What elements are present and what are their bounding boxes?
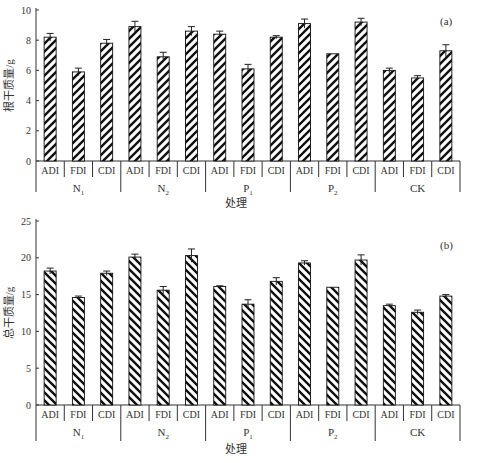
x-axis-label: 处理: [225, 443, 247, 455]
chart-svg: 0510152025总干质量/gADIFDICDIN1ADIFDICDIN2AD…: [0, 212, 480, 463]
category-label: CDI: [98, 165, 115, 176]
bar-ck-fdi: [412, 78, 424, 161]
bar-p1-adi: [214, 34, 226, 161]
category-label: FDI: [70, 165, 86, 176]
bar-n2-fdi: [157, 57, 169, 161]
category-label: ADI: [380, 409, 398, 420]
y-tick-label: 2: [26, 125, 31, 136]
y-tick-label: 8: [26, 35, 31, 46]
category-label: FDI: [240, 409, 256, 420]
category-label: ADI: [211, 165, 229, 176]
category-label: ADI: [296, 165, 314, 176]
group-label: P1: [243, 426, 253, 441]
bar-p1-fdi: [242, 304, 254, 405]
bar-p2-adi: [299, 24, 311, 161]
bar-p1-cdi: [270, 281, 282, 405]
x-axis-label: 处理: [225, 197, 247, 209]
y-tick-label: 6: [26, 65, 31, 76]
category-label: CDI: [183, 165, 200, 176]
category-label: FDI: [155, 165, 171, 176]
bar-n1-cdi: [101, 273, 113, 405]
group-label: N1: [73, 182, 85, 197]
bar-ck-cdi: [440, 51, 452, 161]
category-label: ADI: [126, 409, 144, 420]
bar-n2-adi: [129, 257, 141, 405]
group-label: N2: [157, 426, 169, 441]
category-label: CDI: [352, 165, 369, 176]
group-label: P2: [328, 182, 338, 197]
bar-p2-fdi: [327, 54, 339, 161]
bar-p1-cdi: [270, 37, 282, 161]
bar-n1-adi: [44, 271, 56, 405]
category-label: FDI: [70, 409, 86, 420]
y-axis-label: 总干质量/g: [2, 286, 15, 339]
bar-ck-fdi: [412, 312, 424, 405]
category-label: CDI: [268, 409, 285, 420]
category-label: CDI: [437, 409, 454, 420]
group-label: N1: [73, 426, 85, 441]
category-label: FDI: [325, 409, 341, 420]
category-label: ADI: [296, 409, 314, 420]
bar-n1-fdi: [72, 298, 84, 405]
bar-p1-fdi: [242, 69, 254, 161]
y-tick-label: 5: [26, 363, 31, 374]
y-tick-label: 0: [26, 156, 31, 167]
group-label: CK: [410, 426, 425, 438]
category-label: CDI: [437, 165, 454, 176]
bar-p2-adi: [299, 263, 311, 405]
bar-n2-fdi: [157, 290, 169, 405]
category-label: CDI: [183, 409, 200, 420]
bar-n1-adi: [44, 37, 56, 161]
y-tick-label: 15: [21, 289, 31, 300]
category-label: ADI: [211, 409, 229, 420]
y-tick-label: 4: [26, 95, 31, 106]
bar-ck-cdi: [440, 296, 452, 405]
category-label: ADI: [380, 165, 398, 176]
bar-n1-cdi: [101, 43, 113, 161]
category-label: CDI: [98, 409, 115, 420]
panel-label: (b): [440, 239, 453, 252]
bar-n2-cdi: [185, 256, 197, 405]
category-label: FDI: [155, 409, 171, 420]
y-tick-label: 25: [21, 216, 31, 227]
total-dry-mass-chart: 0510152025总干质量/gADIFDICDIN1ADIFDICDIN2AD…: [0, 212, 480, 463]
category-label: FDI: [410, 409, 426, 420]
category-label: FDI: [325, 165, 341, 176]
bar-p2-fdi: [327, 287, 339, 405]
bar-n2-cdi: [185, 31, 197, 161]
y-axis-label: 根干质量/g: [2, 59, 15, 112]
panel-label: (a): [440, 15, 453, 28]
y-tick-label: 0: [26, 400, 31, 411]
group-label: P1: [243, 182, 253, 197]
category-label: ADI: [41, 165, 59, 176]
bar-p2-cdi: [355, 260, 367, 405]
category-label: CDI: [352, 409, 369, 420]
bar-ck-adi: [383, 306, 395, 405]
y-tick-label: 10: [21, 5, 31, 16]
bar-n1-fdi: [72, 72, 84, 161]
y-tick-label: 10: [21, 326, 31, 337]
category-label: CDI: [268, 165, 285, 176]
group-label: CK: [410, 182, 425, 194]
group-label: P2: [328, 426, 338, 441]
category-label: FDI: [240, 165, 256, 176]
category-label: FDI: [410, 165, 426, 176]
y-tick-label: 20: [21, 252, 31, 263]
bar-n2-adi: [129, 27, 141, 161]
bar-p1-adi: [214, 287, 226, 405]
bar-ck-adi: [383, 70, 395, 161]
category-label: ADI: [41, 409, 59, 420]
bar-p2-cdi: [355, 22, 367, 161]
root-dry-mass-chart: 0246810根干质量/gADIFDICDIN1ADIFDICDIN2ADIFD…: [0, 0, 480, 210]
group-label: N2: [157, 182, 169, 197]
category-label: ADI: [126, 165, 144, 176]
chart-svg: 0246810根干质量/gADIFDICDIN1ADIFDICDIN2ADIFD…: [0, 0, 480, 210]
